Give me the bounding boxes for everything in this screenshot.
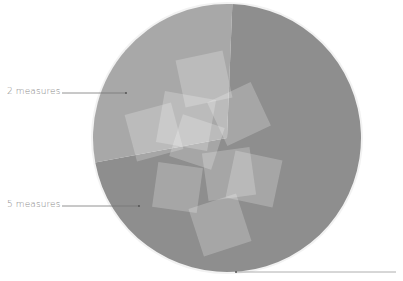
leader-dot-2-measures	[125, 92, 127, 94]
baseline-dot	[235, 271, 237, 273]
label-5-measures: 5 measures	[7, 199, 61, 209]
overlay-square	[152, 162, 203, 213]
leader-dot-5-measures	[138, 205, 140, 207]
pie-chart	[0, 0, 403, 281]
label-2-measures: 2 measures	[7, 86, 61, 96]
